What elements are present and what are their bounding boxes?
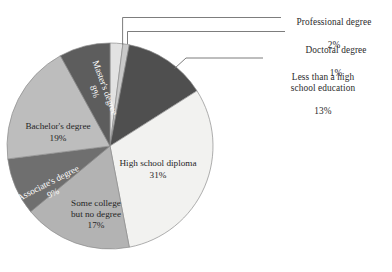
pie-label-high-school-diploma-line-2: 31% <box>150 170 167 180</box>
callout-less-than-high-school-name: Less than a high school education <box>262 72 384 94</box>
pie-label-some-college-line-1: Some college <box>71 198 121 208</box>
pie-chart-figure: Professional degree 2%Doctoral degree 1%… <box>0 0 392 272</box>
leader-line-professional-degree <box>123 18 281 45</box>
leader-line-less-than-high-school <box>175 58 264 69</box>
pie-label-bachelors-degree-line-1: Bachelor's degree <box>25 122 90 132</box>
pie-label-high-school-diploma-line-1: High school diploma <box>119 159 196 169</box>
pie-label-some-college-line-2: but no degree <box>71 209 121 219</box>
pie-label-bachelors-degree-line-2: 19% <box>50 133 67 143</box>
callout-professional-degree-name: Professional degree <box>276 17 392 28</box>
pie-label-some-college-line-3: 17% <box>88 220 105 230</box>
callout-less-than-high-school: Less than a high school education 13% <box>262 61 384 128</box>
callout-less-than-high-school-value: 13% <box>262 106 384 117</box>
callout-doctoral-degree-name: Doctoral degree <box>280 45 392 56</box>
leader-line-doctoral-degree <box>128 32 286 45</box>
